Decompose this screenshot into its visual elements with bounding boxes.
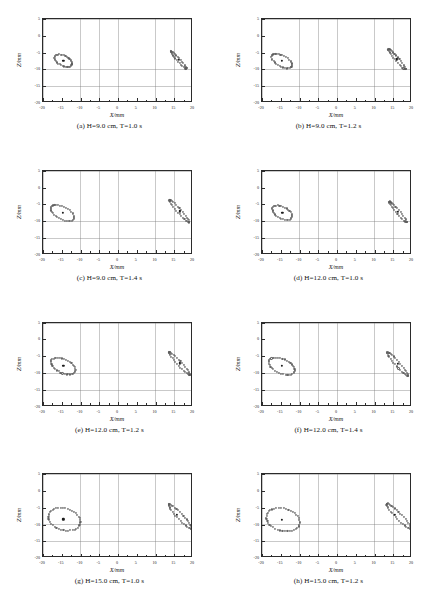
plot-area: [261, 18, 411, 102]
y-tick-label: -20: [35, 251, 40, 256]
y-tick-label: -10: [35, 66, 40, 71]
panel-caption-d: (d) H=12.0 cm, T=1.0 s: [219, 274, 438, 282]
y-axis-title: Z/mm: [15, 53, 22, 67]
y-tick-label: 5: [38, 471, 40, 476]
y-tick-label: -15: [254, 234, 259, 239]
scatter-cluster-right-streak: [262, 474, 410, 556]
cluster-center-marker: [178, 362, 180, 364]
panel-caption-g: (g) H=15.0 cm, T=1.0 s: [0, 577, 219, 585]
panel-caption-e: (e) H=12.0 cm, T=1.2 s: [0, 426, 219, 434]
y-tick-label: -5: [37, 504, 40, 509]
y-tick-label: 0: [257, 184, 259, 189]
panel-body: -20-15-10-50510152050-5-10-15-20X/mmZ/mm…: [219, 0, 438, 152]
y-tick-label: -20: [35, 403, 40, 408]
data-point: [409, 523, 411, 525]
y-tick-label: 5: [38, 167, 40, 172]
panel-row: -20-15-10-50510152050-5-10-15-20X/mmZ/mm…: [0, 455, 438, 607]
y-tick-label: -10: [254, 369, 259, 374]
panel-body: -20-15-10-50510152050-5-10-15-20X/mmZ/mm…: [219, 455, 438, 607]
plot-area: [261, 473, 411, 557]
y-tick-labels: 50-5-10-15-20: [22, 473, 40, 557]
y-tick-label: -5: [37, 353, 40, 358]
figure-panel-grid: -20-15-10-50510152050-5-10-15-20X/mmZ/mm…: [0, 0, 438, 607]
scatter-cluster-right-streak: [43, 19, 191, 101]
y-axis-title: Z/mm: [15, 356, 22, 370]
scatter-cluster-right-streak: [43, 171, 191, 253]
y-tick-label: -5: [256, 201, 259, 206]
x-axis-title: X/mm: [42, 415, 192, 422]
y-tick-label: -15: [35, 386, 40, 391]
y-tick-label: -20: [35, 100, 40, 105]
y-tick-label: -20: [35, 555, 40, 560]
y-tick-label: -20: [254, 251, 259, 256]
x-axis-title: X/mm: [42, 566, 192, 573]
y-axis-title: Z/mm: [15, 205, 22, 219]
cluster-center-marker: [178, 210, 180, 212]
y-tick-label: -15: [254, 83, 259, 88]
panel-caption-a: (a) H=9.0 cm, T=1.0 s: [0, 122, 219, 130]
plot-area: [42, 18, 192, 102]
x-axis-title: X/mm: [42, 263, 192, 270]
y-tick-label: 0: [38, 32, 40, 37]
y-tick-label: -5: [37, 49, 40, 54]
x-axis-title: X/mm: [261, 111, 411, 118]
scatter-cluster-right-streak: [262, 171, 410, 253]
y-tick-label: -5: [256, 504, 259, 509]
panel-body: -20-15-10-50510152050-5-10-15-20X/mmZ/mm…: [0, 455, 219, 607]
panel-row: -20-15-10-50510152050-5-10-15-20X/mmZ/mm…: [0, 0, 438, 152]
y-tick-label: -15: [35, 538, 40, 543]
data-point: [188, 222, 190, 224]
y-axis-title: Z/mm: [15, 508, 22, 522]
plot-panel-c: -20-15-10-50510152050-5-10-15-20X/mmZ/mm…: [0, 152, 219, 304]
panel-body: -20-15-10-50510152050-5-10-15-20X/mmZ/mm…: [219, 304, 438, 456]
panel-body: -20-15-10-50510152050-5-10-15-20X/mmZ/mm…: [0, 304, 219, 456]
plot-area: [261, 322, 411, 406]
panel-body: -20-15-10-50510152050-5-10-15-20X/mmZ/mm…: [0, 152, 219, 304]
cluster-center-marker: [397, 363, 399, 365]
cluster-center-marker: [178, 59, 180, 61]
panel-caption-f: (f) H=12.0 cm, T=1.4 s: [219, 426, 438, 434]
data-point: [191, 527, 192, 529]
data-point: [188, 374, 190, 376]
plot-area: [42, 322, 192, 406]
x-axis-title: X/mm: [261, 566, 411, 573]
y-tick-label: -20: [254, 100, 259, 105]
y-tick-label: -20: [254, 555, 259, 560]
panel-caption-b: (b) H=9.0 cm, T=1.2 s: [219, 122, 438, 130]
y-tick-label: 0: [38, 336, 40, 341]
data-point: [410, 528, 411, 530]
data-point: [189, 523, 191, 525]
y-tick-label: 0: [257, 488, 259, 493]
panel-body: -20-15-10-50510152050-5-10-15-20X/mmZ/mm…: [219, 152, 438, 304]
y-tick-label: -10: [254, 66, 259, 71]
y-tick-labels: 50-5-10-15-20: [241, 322, 259, 406]
panel-row: -20-15-10-50510152050-5-10-15-20X/mmZ/mm…: [0, 304, 438, 456]
y-tick-label: 5: [257, 167, 259, 172]
panel-row: -20-15-10-50510152050-5-10-15-20X/mmZ/mm…: [0, 152, 438, 304]
y-tick-label: 5: [257, 471, 259, 476]
scatter-cluster-right-streak: [43, 474, 191, 556]
y-tick-labels: 50-5-10-15-20: [241, 170, 259, 254]
plot-area: [261, 170, 411, 254]
y-tick-label: -10: [35, 521, 40, 526]
y-tick-label: 0: [38, 488, 40, 493]
y-tick-label: -20: [254, 403, 259, 408]
x-axis-title: X/mm: [261, 415, 411, 422]
y-tick-labels: 50-5-10-15-20: [22, 18, 40, 102]
panel-body: -20-15-10-50510152050-5-10-15-20X/mmZ/mm…: [0, 0, 219, 152]
y-tick-labels: 50-5-10-15-20: [241, 18, 259, 102]
y-axis-title: Z/mm: [234, 508, 241, 522]
plot-area: [42, 170, 192, 254]
panel-caption-h: (h) H=15.0 cm, T=1.2 s: [219, 577, 438, 585]
y-axis-title: Z/mm: [234, 205, 241, 219]
y-tick-label: -10: [254, 521, 259, 526]
x-axis-title: X/mm: [261, 263, 411, 270]
y-tick-label: 0: [257, 336, 259, 341]
data-point: [190, 528, 192, 530]
plot-panel-h: -20-15-10-50510152050-5-10-15-20X/mmZ/mm…: [219, 455, 438, 607]
data-point: [410, 528, 411, 530]
y-tick-label: -15: [254, 538, 259, 543]
scatter-cluster-right-streak: [262, 19, 410, 101]
plot-panel-g: -20-15-10-50510152050-5-10-15-20X/mmZ/mm…: [0, 455, 219, 607]
y-tick-label: -10: [254, 218, 259, 223]
